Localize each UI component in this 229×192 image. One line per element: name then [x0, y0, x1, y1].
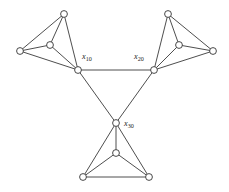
node-label: x30	[123, 119, 134, 129]
graph-node[interactable]	[80, 174, 87, 181]
graph-node[interactable]	[61, 11, 68, 18]
graph-edge	[83, 153, 116, 177]
node-layer	[17, 11, 217, 181]
graph-edge	[50, 45, 78, 70]
graph-node[interactable]	[17, 48, 24, 55]
graph-node[interactable]	[47, 42, 54, 49]
graph-node[interactable]	[146, 174, 153, 181]
graph-edge	[116, 70, 154, 123]
node-label: x20	[133, 52, 144, 62]
graph-node[interactable]	[210, 48, 217, 55]
graph-edge	[20, 51, 78, 70]
graph-node[interactable]	[113, 150, 120, 157]
graph-edge	[116, 153, 149, 177]
graph-edge	[116, 123, 149, 177]
graph-edge	[83, 123, 116, 177]
graph-diagram: x10x20x30	[0, 0, 229, 192]
graph-canvas: x10x20x30	[0, 0, 229, 192]
graph-node[interactable]	[113, 120, 120, 127]
graph-edge	[20, 45, 50, 51]
node-label: x10	[81, 52, 92, 62]
graph-node[interactable]	[176, 42, 183, 49]
graph-edge	[154, 14, 168, 70]
graph-edge	[78, 70, 116, 123]
graph-node[interactable]	[151, 67, 158, 74]
graph-edge	[179, 45, 213, 51]
graph-node[interactable]	[75, 67, 82, 74]
graph-edge	[20, 14, 64, 51]
graph-edge	[64, 14, 78, 70]
graph-node[interactable]	[165, 11, 172, 18]
graph-edge	[154, 51, 213, 70]
graph-edge	[50, 14, 64, 45]
